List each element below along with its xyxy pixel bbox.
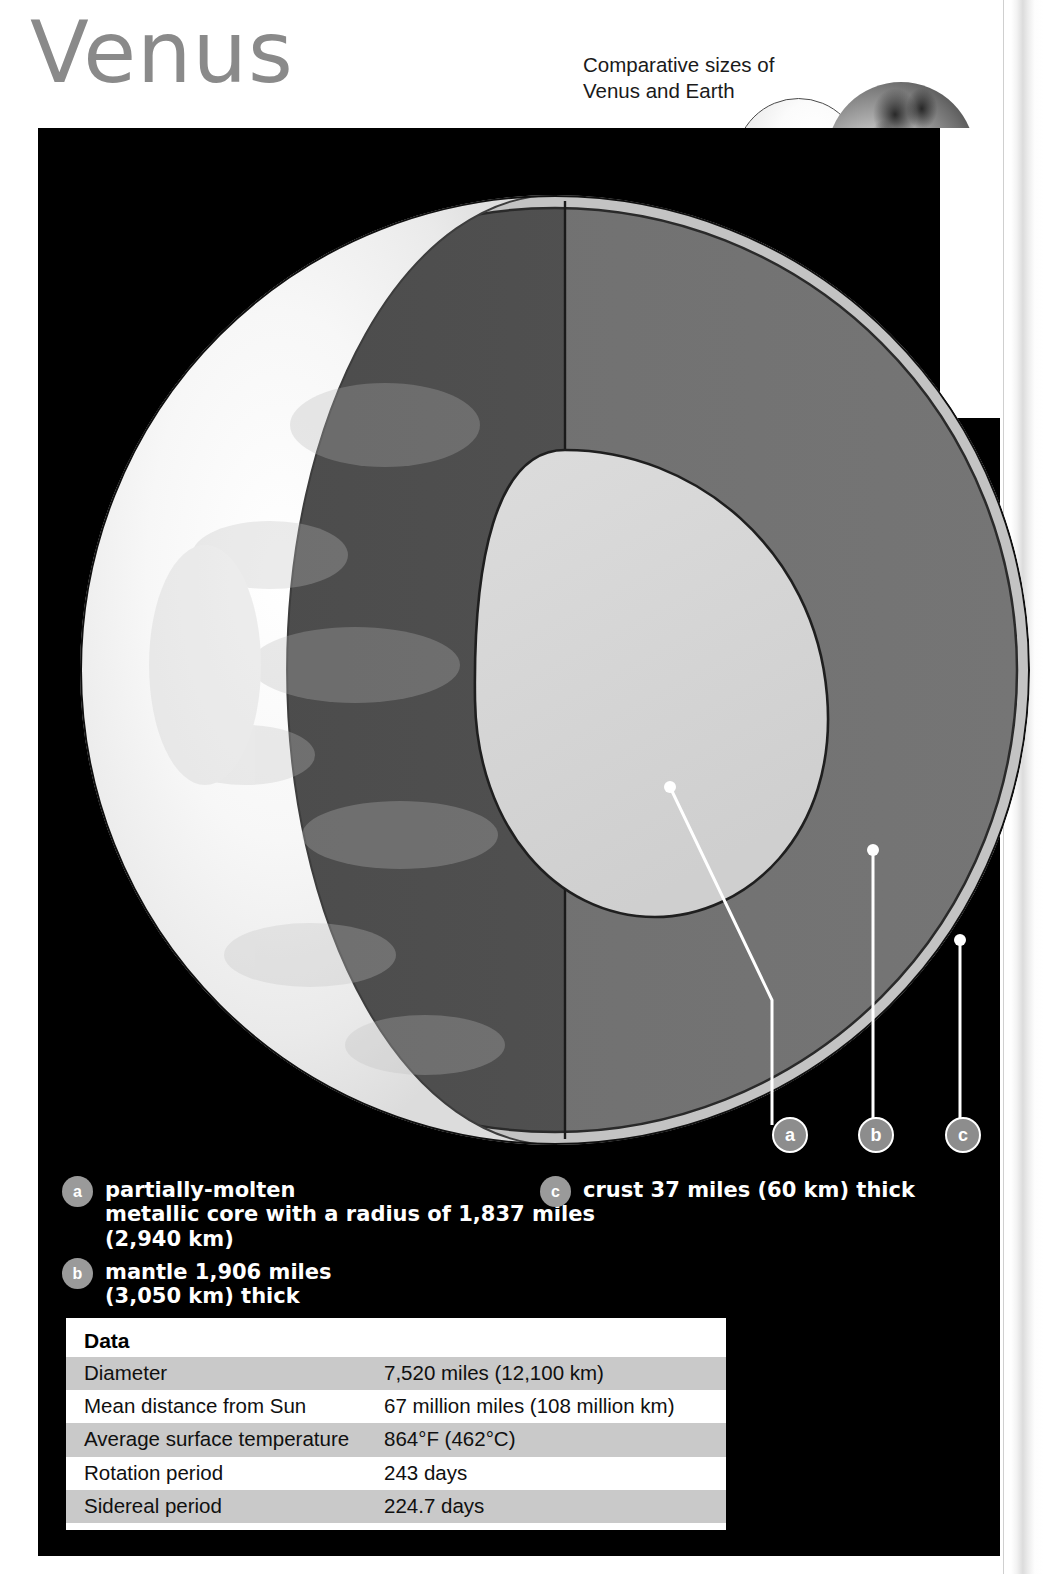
planet-cutaway-svg [55,195,1043,1145]
callout-marker-c[interactable]: c [945,1117,981,1153]
legend-badge-b: b [62,1258,93,1289]
callout-marker-b[interactable]: b [858,1117,894,1153]
leader-dot-a [664,781,676,793]
table-row: Sidereal period 224.7 days [66,1490,726,1523]
table-row: Average surface temperature 864°F (462°C… [66,1423,726,1456]
legend-text-c: crust 37 miles (60 km) thick [583,1176,915,1202]
data-label: Sidereal period [84,1494,384,1518]
legend-item-b: b mantle 1,906 miles (3,050 km) thick [62,1258,332,1309]
data-table-header: Data [66,1326,726,1357]
legend-text-b: mantle 1,906 miles (3,050 km) thick [105,1258,332,1309]
planet-cutaway-diagram [55,195,1043,1145]
data-label: Diameter [84,1361,384,1385]
data-value: 224.7 days [384,1494,726,1518]
leader-dot-c [954,934,966,946]
data-value: 864°F (462°C) [384,1427,726,1451]
data-value: 7,520 miles (12,100 km) [384,1361,726,1385]
data-label: Rotation period [84,1461,384,1485]
legend: a partially-molten metallic core with a … [62,1176,982,1296]
data-table: Data Diameter 7,520 miles (12,100 km) Me… [66,1318,726,1530]
legend-item-c: c crust 37 miles (60 km) thick [540,1176,915,1207]
data-value: 243 days [384,1461,726,1485]
legend-text-a: partially-molten metallic core with a ra… [105,1176,595,1251]
data-label: Mean distance from Sun [84,1394,384,1418]
callout-marker-a[interactable]: a [772,1117,808,1153]
legend-badge-a: a [62,1176,93,1207]
legend-badge-c: c [540,1176,571,1207]
table-row: Mean distance from Sun 67 million miles … [66,1390,726,1423]
leader-dot-b [867,844,879,856]
table-row: Rotation period 243 days [66,1457,726,1490]
table-row: Diameter 7,520 miles (12,100 km) [66,1357,726,1390]
data-value: 67 million miles (108 million km) [384,1394,726,1418]
legend-item-a: a partially-molten metallic core with a … [62,1176,595,1251]
data-label: Average surface temperature [84,1427,384,1451]
page-title: Venus [30,9,294,95]
